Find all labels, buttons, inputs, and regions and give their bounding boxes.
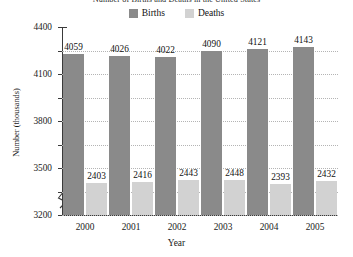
plot-area: 200023002600290032003500380041004400 405…	[62, 27, 338, 215]
bar-group: 40592403	[62, 27, 108, 215]
chart-legend: Births Deaths	[0, 9, 353, 19]
bar-group: 41212393	[246, 27, 292, 215]
bar-deaths-2000	[86, 183, 107, 215]
bar-deaths-2003	[224, 180, 245, 215]
bar-group: 40902448	[200, 27, 246, 215]
x-axis-tick-label: 2004	[260, 222, 279, 232]
y-axis-tick: 2000	[58, 215, 62, 216]
bar-value-label: 2443	[179, 169, 198, 178]
legend-swatch-births	[129, 9, 138, 18]
y-axis-tick-label: 4100	[33, 69, 52, 79]
bar-value-label: 4090	[202, 40, 221, 49]
bars-layer: 4059240340262416402224434090244841212393…	[62, 27, 338, 215]
bar-value-label: 4121	[248, 38, 267, 47]
legend-entry-deaths: Deaths	[185, 9, 224, 19]
y-axis-tick-label: 4400	[33, 22, 52, 32]
gridline	[62, 215, 338, 216]
x-axis-tick-label: 2005	[306, 222, 325, 232]
bar-births-2005	[293, 47, 314, 215]
bar-value-label: 2432	[317, 170, 336, 179]
bar-value-label: 4022	[156, 46, 175, 55]
bar-births-2002	[155, 57, 176, 215]
bar-value-label: 2416	[133, 171, 152, 180]
x-axis-tick-label: 2002	[168, 222, 187, 232]
legend-label-deaths: Deaths	[198, 9, 224, 19]
legend-label-births: Births	[142, 9, 165, 19]
y-axis-title: Number (thousands)	[12, 63, 21, 183]
bar-births-2001	[109, 56, 130, 215]
x-axis-tick-label: 2000	[76, 222, 95, 232]
bar-deaths-2004	[270, 184, 291, 215]
bar-value-label: 4059	[64, 43, 83, 52]
y-axis-tick-label: 3500	[33, 163, 52, 173]
y-axis-tick-label: 3200	[33, 210, 52, 220]
bar-group: 40262416	[108, 27, 154, 215]
bar-value-label: 2448	[225, 169, 244, 178]
bar-births-2003	[201, 51, 222, 215]
bar-deaths-2005	[316, 181, 337, 215]
bar-deaths-2001	[132, 182, 153, 215]
bar-value-label: 4026	[110, 45, 129, 54]
legend-entry-births: Births	[129, 9, 165, 19]
x-axis-tick-label: 2001	[122, 222, 141, 232]
bar-births-2004	[247, 49, 268, 215]
legend-swatch-deaths	[185, 9, 194, 18]
x-axis-tick-label: 2003	[214, 222, 233, 232]
bar-value-label: 4143	[294, 36, 313, 45]
bar-group: 40222443	[154, 27, 200, 215]
bar-value-label: 2393	[271, 173, 290, 182]
x-axis-title: Year	[0, 238, 353, 248]
bar-births-2000	[63, 54, 84, 215]
bar-deaths-2002	[178, 180, 199, 215]
bar-chart: Number of Births and Deaths in the Unite…	[0, 0, 353, 257]
y-axis-tick-label: 3800	[33, 116, 52, 126]
bar-group: 41432432	[292, 27, 338, 215]
chart-title: Number of Births and Deaths in the Unite…	[0, 0, 353, 4]
bar-value-label: 2403	[87, 172, 106, 181]
